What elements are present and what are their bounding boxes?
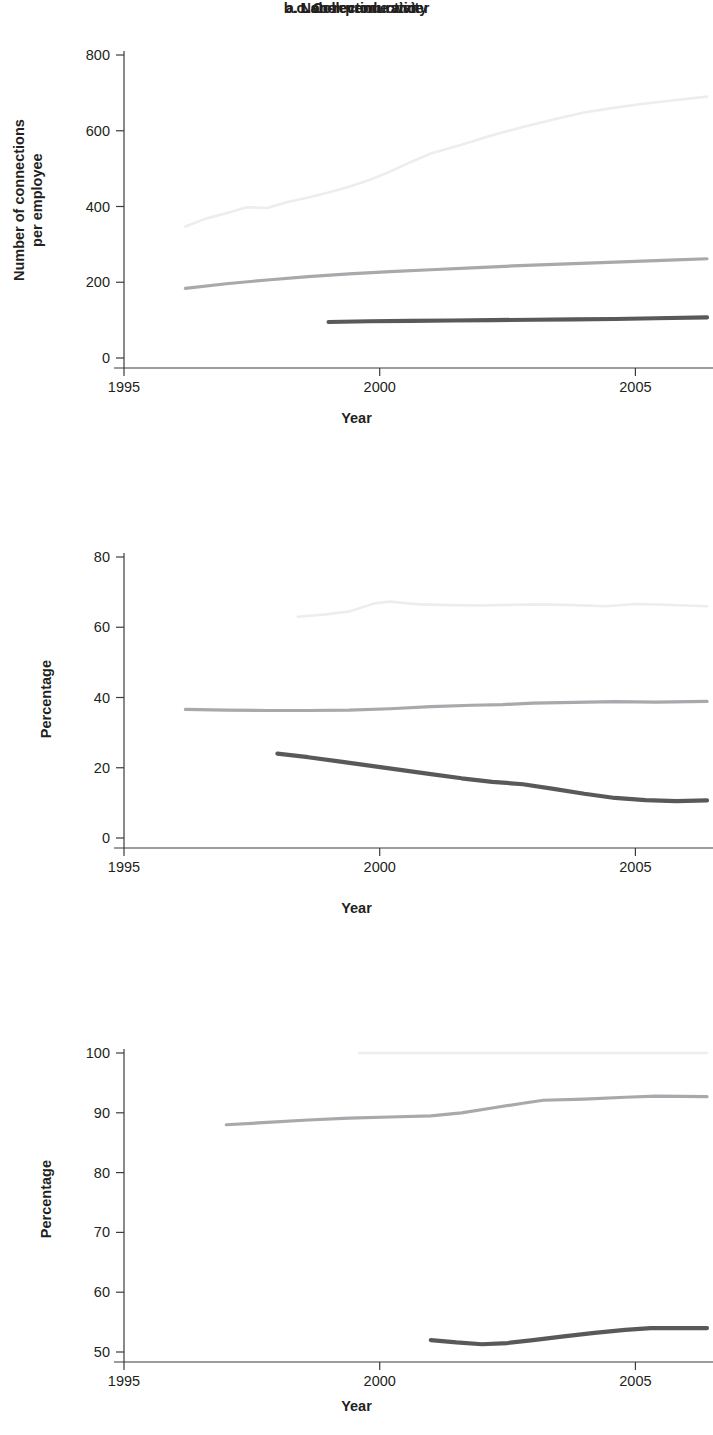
x-tick-label: 2005 (619, 859, 651, 875)
y-tick-label: 70 (94, 1224, 110, 1240)
y-tick-label: 0 (102, 350, 110, 366)
y-tick-label: 90 (94, 1105, 110, 1121)
x-tick-label: 2000 (364, 1373, 396, 1389)
series-line-light-series (185, 97, 707, 227)
series-line-dark-series (329, 317, 707, 322)
x-tick-label: 2000 (364, 859, 396, 875)
series-line-mid-series (226, 1096, 707, 1125)
x-tick-label: 1995 (108, 859, 140, 875)
x-tick-label: 1995 (108, 1373, 140, 1389)
x-tick-label: 1995 (108, 379, 140, 395)
y-tick-label: 0 (102, 830, 110, 846)
panel-a-plot: 0200400600800199520002005 (0, 0, 713, 478)
y-tick-label: 20 (94, 760, 110, 776)
x-tick-label: 2005 (619, 1373, 651, 1389)
y-tick-label: 50 (94, 1344, 110, 1360)
x-tick-label: 2005 (619, 379, 651, 395)
series-line-mid-series (185, 701, 707, 710)
y-tick-label: 40 (94, 690, 110, 706)
y-tick-label: 60 (94, 619, 110, 635)
panel-c-plot: 5060708090100199520002005 (0, 985, 713, 1435)
y-tick-label: 800 (86, 47, 110, 63)
y-tick-label: 60 (94, 1284, 110, 1300)
series-line-light-series (298, 602, 707, 617)
y-tick-label: 200 (86, 274, 110, 290)
y-tick-label: 400 (86, 199, 110, 215)
panel-b-plot: 020406080199520002005 (0, 490, 713, 968)
y-tick-label: 80 (94, 549, 110, 565)
y-tick-label: 600 (86, 123, 110, 139)
y-tick-label: 80 (94, 1165, 110, 1181)
series-line-dark-series (277, 754, 707, 801)
series-line-mid-series (185, 259, 707, 289)
x-tick-label: 2000 (364, 379, 396, 395)
y-tick-label: 100 (86, 1045, 110, 1061)
series-line-dark-series (431, 1328, 707, 1344)
